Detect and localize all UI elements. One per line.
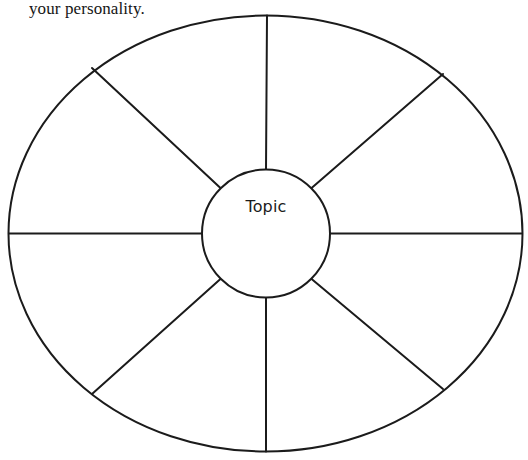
spoke-north: [266, 16, 267, 170]
wheel-diagram: [0, 0, 528, 460]
worksheet-page: your personality. Topic: [0, 0, 528, 460]
topic-label: Topic: [206, 197, 326, 216]
inner-circle: [202, 170, 330, 298]
